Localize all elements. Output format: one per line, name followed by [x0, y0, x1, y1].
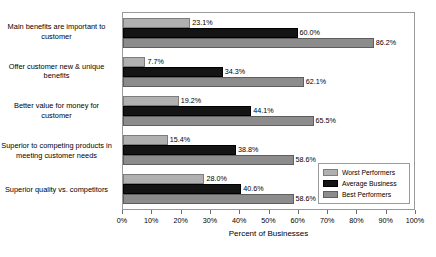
- legend-item[interactable]: Worst Performers: [323, 167, 405, 178]
- bar-row: 7.7%: [123, 57, 414, 67]
- category-label: Offer customer new & unique benefits: [0, 52, 118, 92]
- bar-value-label: 34.3%: [223, 68, 245, 76]
- axis-tick: [269, 210, 270, 214]
- category-axis: Main benefits are important to customerO…: [0, 12, 118, 210]
- bar-value-label: 58.6%: [294, 195, 316, 203]
- axis-tick-label: 30%: [203, 216, 217, 226]
- bar[interactable]: [123, 38, 374, 48]
- category-label-text: Superior to competing products in meetin…: [0, 141, 113, 160]
- axis-tick: [122, 210, 123, 214]
- axis-tick: [151, 210, 152, 214]
- bar[interactable]: [123, 174, 204, 184]
- axis-tick: [239, 210, 240, 214]
- bar-value-label: 44.1%: [251, 107, 273, 115]
- category-label-text: Offer customer new & unique benefits: [0, 62, 113, 81]
- axis-tick-label: 100%: [406, 216, 424, 226]
- bar[interactable]: [123, 155, 294, 165]
- bar[interactable]: [123, 184, 241, 194]
- bar-value-label: 38.8%: [236, 146, 258, 154]
- legend-swatch-icon: [323, 169, 338, 176]
- bar-value-label: 23.1%: [190, 19, 212, 27]
- bar-row: 19.2%: [123, 96, 414, 106]
- bar-row: 60.0%: [123, 28, 414, 38]
- bar[interactable]: [123, 194, 294, 204]
- bar-value-label: 7.7%: [145, 58, 163, 66]
- axis-tick: [386, 210, 387, 214]
- bar-value-label: 86.2%: [374, 39, 396, 47]
- category-label-text: Superior quality vs. competitors: [0, 185, 113, 195]
- legend-item-label: Worst Performers: [342, 169, 395, 177]
- legend-item-label: Average Business: [342, 180, 397, 188]
- legend-item[interactable]: Average Business: [323, 178, 405, 189]
- bar-chart: Main benefits are important to customerO…: [0, 0, 436, 257]
- bar-row: 44.1%: [123, 106, 414, 116]
- bar-value-label: 60.0%: [298, 29, 320, 37]
- bar[interactable]: [123, 116, 314, 126]
- bar[interactable]: [123, 77, 304, 87]
- bar[interactable]: [123, 135, 168, 145]
- axis-tick: [181, 210, 182, 214]
- legend-item[interactable]: Best Performers: [323, 189, 405, 200]
- bar-value-label: 40.6%: [241, 185, 263, 193]
- bar-value-label: 19.2%: [179, 97, 201, 105]
- axis-tick-label: 80%: [349, 216, 363, 226]
- category-label: Better value for money for customer: [0, 91, 118, 131]
- axis-tick-label: 20%: [173, 216, 187, 226]
- bar[interactable]: [123, 28, 298, 38]
- axis-tick-label: 90%: [378, 216, 392, 226]
- category-label: Main benefits are important to customer: [0, 12, 118, 52]
- bar[interactable]: [123, 67, 223, 77]
- axis-tick: [298, 210, 299, 214]
- legend-swatch-icon: [323, 191, 338, 198]
- bar-group: 7.7%34.3%62.1%: [123, 52, 414, 91]
- chart-legend: Worst PerformersAverage BusinessBest Per…: [318, 163, 410, 204]
- bar-value-label: 15.4%: [168, 136, 190, 144]
- axis-tick-label: 40%: [232, 216, 246, 226]
- bar-row: 62.1%: [123, 77, 414, 87]
- legend-swatch-icon: [323, 180, 338, 187]
- bar[interactable]: [123, 57, 145, 67]
- axis-tick-label: 10%: [144, 216, 158, 226]
- category-label: Superior to competing products in meetin…: [0, 131, 118, 171]
- axis-tick: [210, 210, 211, 214]
- axis-tick: [356, 210, 357, 214]
- x-axis-title: Percent of Businesses: [122, 229, 415, 238]
- axis-tick: [415, 210, 416, 214]
- category-label-text: Better value for money for customer: [0, 101, 113, 120]
- bar-value-label: 65.5%: [314, 117, 336, 125]
- bar-value-label: 62.1%: [304, 78, 326, 86]
- bar-value-label: 28.0%: [204, 175, 226, 183]
- category-label: Superior quality vs. competitors: [0, 170, 118, 210]
- axis-tick-label: 70%: [320, 216, 334, 226]
- axis-tick-label: 50%: [261, 216, 275, 226]
- bar[interactable]: [123, 96, 179, 106]
- bar-row: 86.2%: [123, 38, 414, 48]
- axis-tick: [327, 210, 328, 214]
- bar-row: 34.3%: [123, 67, 414, 77]
- legend-item-label: Best Performers: [342, 191, 391, 199]
- bar-group: 19.2%44.1%65.5%: [123, 91, 414, 130]
- bar[interactable]: [123, 18, 190, 28]
- bar-group: 23.1%60.0%86.2%: [123, 13, 414, 52]
- bar-row: 65.5%: [123, 116, 414, 126]
- bar-row: 23.1%: [123, 18, 414, 28]
- x-axis-tick-labels: 0%10%20%30%40%50%60%70%80%90%100%: [122, 216, 415, 228]
- category-label-text: Main benefits are important to customer: [0, 22, 113, 41]
- bar[interactable]: [123, 106, 251, 116]
- bar[interactable]: [123, 145, 236, 155]
- bar-value-label: 58.6%: [294, 156, 316, 164]
- bar-row: 15.4%: [123, 135, 414, 145]
- bar-row: 38.8%: [123, 145, 414, 155]
- axis-tick-label: 60%: [291, 216, 305, 226]
- axis-tick-label: 0%: [117, 216, 127, 226]
